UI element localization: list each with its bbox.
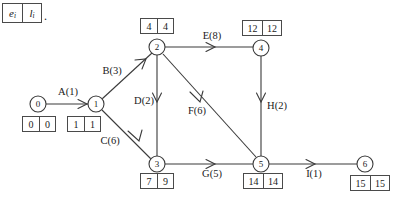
edge-H	[257, 56, 266, 156]
node-label-3: 3	[155, 160, 160, 169]
time-box-node-4: 12 12	[242, 20, 282, 36]
edge-label-I: I(1)	[306, 169, 322, 180]
time-box-early-6: 15	[351, 176, 370, 190]
node-label-6: 6	[363, 160, 368, 169]
time-box-early-0: 0	[23, 117, 39, 131]
time-box-late-4: 12	[262, 21, 281, 35]
time-box-early-3: 7	[141, 174, 157, 188]
edge-label-G: G(5)	[202, 169, 222, 180]
edge-label-F: F(6)	[188, 106, 206, 117]
time-box-early-5: 14	[244, 174, 263, 188]
edge-E	[165, 43, 253, 52]
node-label-2: 2	[155, 43, 160, 52]
time-box-early-2: 4	[141, 19, 157, 33]
edge-label-D: D(2)	[134, 96, 154, 107]
node-label-1: 1	[94, 100, 99, 109]
edge-label-B: B(3)	[102, 66, 121, 77]
edge-F	[163, 54, 256, 157]
time-box-node-1: 1 1	[67, 116, 101, 132]
node-label-0: 0	[36, 100, 41, 109]
time-box-late-5: 14	[263, 174, 282, 188]
time-box-node-6: 15 15	[350, 175, 390, 191]
time-box-late-1: 1	[84, 117, 100, 131]
edge-label-C: C(6)	[100, 136, 119, 147]
time-box-late-6: 15	[370, 176, 389, 190]
time-box-early-4: 12	[243, 21, 262, 35]
time-box-early-1: 1	[68, 117, 84, 131]
time-box-late-2: 4	[157, 19, 173, 33]
time-box-late-0: 0	[39, 117, 55, 131]
time-box-late-3: 9	[157, 174, 173, 188]
time-box-node-0: 0 0	[22, 116, 56, 132]
diagram-canvas: ei li .	[0, 0, 396, 210]
edge-label-H: H(2)	[267, 101, 287, 112]
time-box-node-5: 14 14	[243, 173, 283, 189]
node-label-4: 4	[259, 44, 264, 53]
node-label-5: 5	[259, 160, 264, 169]
edge-label-A: A(1)	[58, 87, 78, 98]
edge-label-E: E(8)	[203, 31, 222, 42]
time-box-node-2: 4 4	[140, 18, 174, 34]
time-box-node-3: 7 9	[140, 173, 174, 189]
